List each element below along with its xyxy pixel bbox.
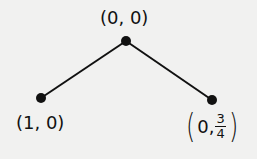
right-paren: ) <box>229 109 238 143</box>
fraction-denominator: 4 <box>216 127 224 141</box>
node-right <box>207 95 217 105</box>
left-paren: ( <box>186 109 195 143</box>
left-label: (1, 0) <box>16 112 64 133</box>
node-left <box>36 93 46 103</box>
fraction: 3 4 <box>215 112 225 141</box>
fraction-numerator: 3 <box>215 112 225 127</box>
edge-root-right <box>126 41 212 100</box>
node-root <box>121 36 131 46</box>
edge-root-left <box>41 41 126 98</box>
right-label: ( 0, 3 4 ) <box>184 109 240 143</box>
right-label-prefix: 0, <box>197 116 214 137</box>
root-label: (0, 0) <box>100 7 148 28</box>
